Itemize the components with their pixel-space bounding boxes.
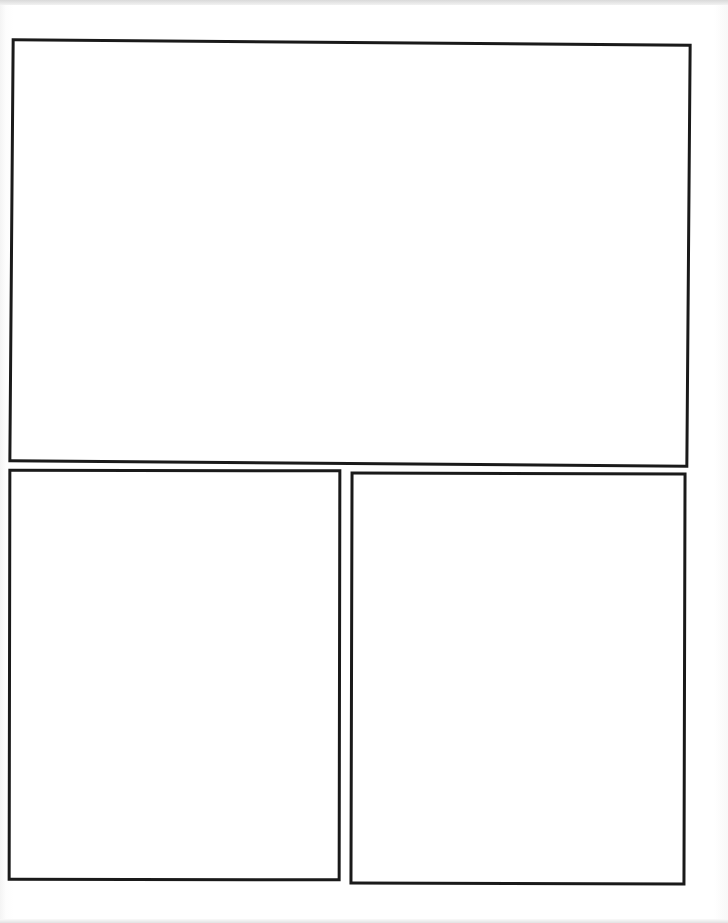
scan-edge-bottom bbox=[0, 919, 728, 923]
panel-top bbox=[8, 38, 691, 467]
panel-bottom-right bbox=[349, 472, 686, 886]
scan-edge-top bbox=[0, 0, 728, 5]
comic-page bbox=[0, 0, 728, 923]
panel-bottom-left bbox=[8, 469, 342, 882]
